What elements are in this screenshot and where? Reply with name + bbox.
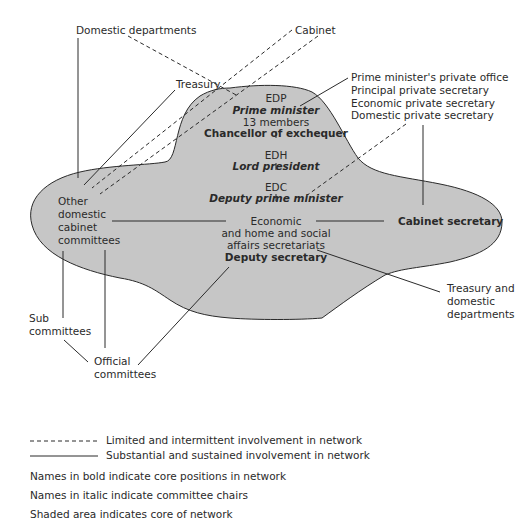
label-official-committees-line1: Official: [94, 355, 130, 368]
label-deputy-secretary: Deputy secretary: [200, 251, 352, 264]
label-treasury-domestic-line3: departments: [447, 308, 515, 321]
label-sub-committees-line2: committees: [29, 325, 91, 338]
legend-shaded-note: Shaded area indicates core of network: [30, 508, 233, 521]
label-other-committees-line1: Other: [58, 195, 88, 208]
label-treasury: Treasury: [176, 78, 221, 91]
label-secretariats-line2: and home and social: [200, 227, 352, 240]
label-economic-private-secretary: Economic private secretary: [351, 97, 495, 110]
label-secretariats-line3: affairs secretariats: [200, 239, 352, 252]
label-sub-committees-line1: Sub: [29, 312, 49, 325]
label-other-committees-line2: domestic: [58, 208, 106, 221]
label-other-committees-line3: cabinet: [58, 221, 97, 234]
label-cabinet-secretary: Cabinet secretary: [398, 215, 503, 228]
label-domestic-private-secretary: Domestic private secretary: [351, 109, 494, 122]
label-official-committees-line2: committees: [94, 368, 156, 381]
label-principal-private-secretary: Principal private secretary: [351, 84, 489, 97]
label-treasury-domestic-line1: Treasury and: [447, 282, 515, 295]
legend-dashed-label: Limited and intermittent involvement in …: [106, 434, 362, 447]
legend-solid-label: Substantial and sustained involvement in…: [106, 449, 370, 462]
label-chancellor-of-exchequer: Chancellor of exchequer: [190, 127, 362, 140]
legend-italic-note: Names in italic indicate committee chair…: [30, 489, 248, 502]
label-other-committees-line4: committees: [58, 234, 120, 247]
label-cabinet: Cabinet: [295, 24, 336, 37]
label-secretariats-line1: Economic: [200, 215, 352, 228]
label-domestic-departments: Domestic departments: [76, 24, 196, 37]
legend-bold-note: Names in bold indicate core positions in…: [30, 470, 286, 483]
label-deputy-prime-minister: Deputy prime minister: [190, 192, 362, 205]
label-edp: EDP: [200, 92, 352, 105]
label-lord-president: Lord president: [200, 160, 352, 173]
label-pm-private-office: Prime minister's private office: [351, 71, 508, 84]
label-treasury-domestic-line2: domestic: [447, 295, 495, 308]
label-prime-minister: Prime minister: [200, 104, 352, 117]
